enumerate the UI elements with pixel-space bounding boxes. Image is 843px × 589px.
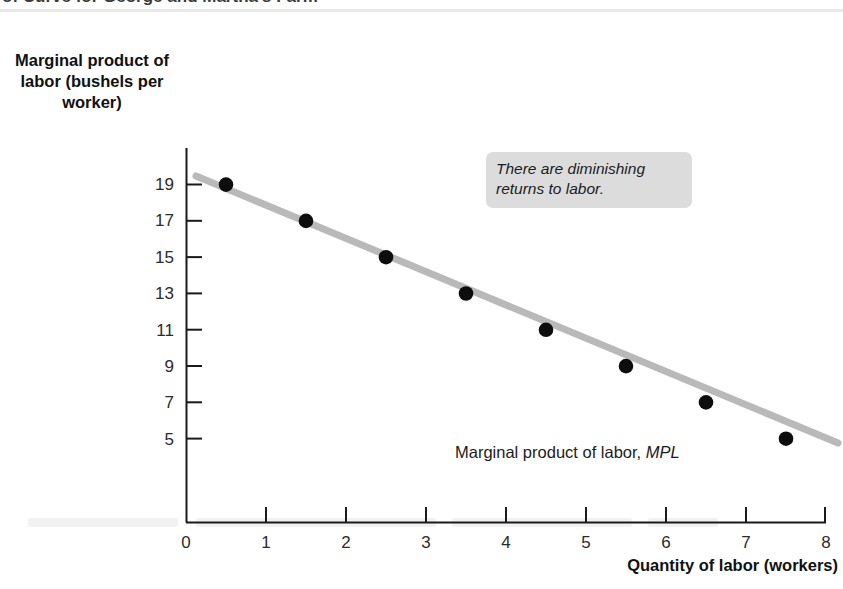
chart-plot-area bbox=[0, 0, 843, 589]
data-point bbox=[779, 431, 794, 446]
mpl-data-points bbox=[219, 177, 794, 446]
curve-label-symbol: MPL bbox=[646, 443, 680, 461]
annotation-text: There are diminishing returns to labor. bbox=[496, 160, 645, 197]
data-point bbox=[219, 177, 234, 192]
y-axis-ticks bbox=[186, 185, 202, 439]
data-point bbox=[619, 359, 634, 374]
data-point bbox=[539, 323, 554, 338]
mpl-curve-line bbox=[196, 176, 838, 443]
curve-label-prefix: Marginal product of labor, bbox=[455, 443, 646, 461]
mpl-curve-label: Marginal product of labor, MPL bbox=[455, 443, 680, 462]
data-point bbox=[459, 286, 474, 301]
x-axis-ticks bbox=[266, 507, 825, 522]
data-point bbox=[379, 250, 394, 265]
diminishing-returns-annotation: There are diminishing returns to labor. bbox=[486, 152, 692, 208]
data-point bbox=[699, 395, 714, 410]
data-point bbox=[299, 214, 314, 229]
